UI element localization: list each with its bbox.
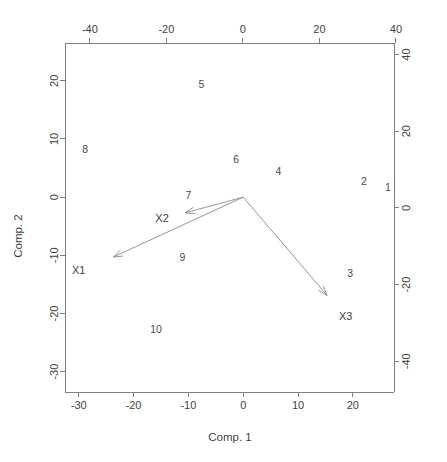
chart-background [0,0,447,462]
right-tick-label: 20 [400,125,412,137]
observation-label: 7 [185,189,191,201]
top-tick-label: 0 [240,23,246,35]
observation-label: 10 [150,323,162,335]
left-tick-label: -10 [48,247,60,263]
variable-label: X3 [339,310,352,322]
variable-label: X1 [72,264,85,276]
variable-label: X2 [155,212,168,224]
bottom-tick-label: -10 [180,399,196,411]
y-axis-title: Comp. 2 [12,214,24,257]
top-tick-label: -20 [158,23,174,35]
observation-label: 3 [347,267,353,279]
observation-label: 5 [199,78,205,90]
right-tick-label: 0 [400,205,412,211]
right-tick-label: 40 [400,48,412,60]
right-tick-label: -40 [400,353,412,369]
bottom-tick-label: -30 [71,399,87,411]
observation-label: 9 [179,251,185,263]
x-axis-title: Comp. 1 [208,431,251,443]
observation-label: 2 [361,175,367,187]
observation-label: 1 [385,181,391,193]
top-tick-label: 20 [313,23,325,35]
bottom-tick-label: -20 [126,399,142,411]
biplot-chart: -30-20-100102020100-10-20-30-40-20020404… [0,0,447,462]
left-tick-label: 10 [48,133,60,145]
observation-label: 4 [275,165,281,177]
left-tick-label: 0 [48,194,60,200]
bottom-tick-label: 20 [347,399,359,411]
bottom-tick-label: 0 [240,399,246,411]
top-tick-label: -40 [82,23,98,35]
left-tick-label: 20 [48,75,60,87]
right-tick-label: -20 [400,277,412,293]
observation-label: 8 [82,143,88,155]
bottom-tick-label: 10 [292,399,304,411]
top-tick-label: 40 [390,23,402,35]
observation-label: 6 [233,153,239,165]
left-tick-label: -20 [48,306,60,322]
left-tick-label: -30 [48,364,60,380]
